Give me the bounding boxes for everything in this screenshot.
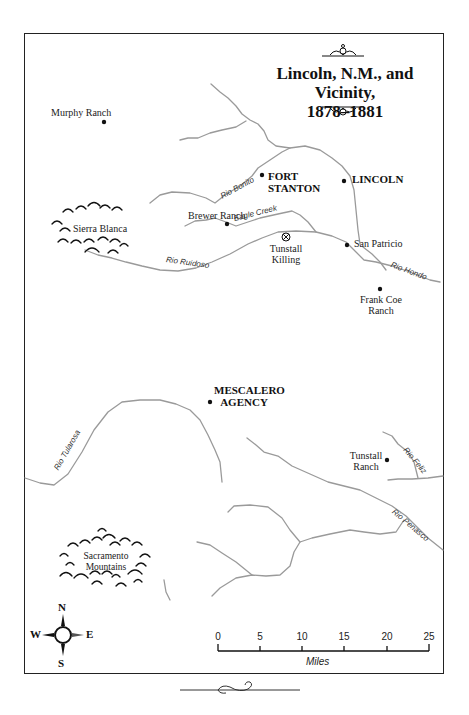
- scale-bar: [218, 644, 429, 651]
- label-murphy-ranch: Murphy Ranch: [51, 107, 111, 118]
- scale-tick-15: 15: [338, 631, 349, 642]
- label-frank-coe-ranch-line2: Ranch: [357, 305, 405, 316]
- compass-s: S: [58, 657, 64, 669]
- page-flourish-icon: [180, 682, 300, 693]
- river-rio-hondo: [363, 247, 386, 270]
- label-tunstall-killing-line2: Killing: [266, 254, 306, 265]
- label-tunstall-killing: Tunstall Killing: [266, 243, 306, 265]
- compass-e: E: [86, 628, 93, 640]
- river-rio-bonito: [150, 146, 360, 244]
- map-title: Lincoln, N.M., and Vicinity, 1878–1881: [250, 64, 440, 121]
- river-feliz-east: [388, 476, 443, 480]
- label-tunstall-ranch: Tunstall Ranch: [348, 450, 384, 472]
- label-mescalero-agency-line1: MESCALERO: [214, 384, 274, 396]
- title-ornament-top-icon: [322, 45, 364, 57]
- scale-tick-10: 10: [296, 631, 307, 642]
- label-lincoln: LINCOLN: [352, 173, 403, 185]
- label-fort-stanton-line1: FORT: [268, 170, 320, 182]
- compass-w: W: [30, 628, 41, 640]
- river-penasco-branch-c: [164, 580, 170, 600]
- river-rio-tularosa: [25, 400, 222, 485]
- compass-rose-icon: [42, 614, 84, 656]
- label-san-patricio: San Patricio: [354, 238, 403, 249]
- label-tunstall-killing-line1: Tunstall: [266, 243, 306, 254]
- scale-tick-5: 5: [257, 631, 263, 642]
- label-sacramento-mountains-line1: Sacramento: [80, 551, 132, 562]
- label-sacramento-mountains: Sacramento Mountains: [80, 551, 132, 573]
- label-frank-coe-ranch: Frank Coe Ranch: [357, 294, 405, 316]
- label-tunstall-ranch-line1: Tunstall: [348, 450, 384, 461]
- river-penasco-branch-a: [228, 505, 300, 542]
- label-mescalero-agency: MESCALERO AGENCY: [214, 384, 274, 408]
- river-penasco-branch-b: [197, 542, 252, 575]
- label-sacramento-mountains-line2: Mountains: [80, 562, 132, 573]
- map-title-line1: Lincoln, N.M., and Vicinity,: [250, 64, 440, 102]
- label-frank-coe-ranch-line1: Frank Coe: [357, 294, 405, 305]
- scale-tick-25: 25: [423, 631, 434, 642]
- scale-tick-20: 20: [381, 631, 392, 642]
- label-fort-stanton-line2: STANTON: [268, 182, 320, 194]
- map-title-line2: 1878–1881: [250, 102, 440, 121]
- compass-n: N: [58, 601, 66, 613]
- scale-tick-0: 0: [215, 631, 221, 642]
- tunstall-killing-marker-icon: [282, 233, 290, 241]
- label-mescalero-agency-line2: AGENCY: [214, 396, 274, 408]
- river-penasco-lower-main: [212, 520, 404, 596]
- scale-unit-label: Miles: [306, 656, 329, 667]
- label-sierra-blanca: Sierra Blanca: [73, 223, 127, 234]
- label-tunstall-ranch-line2: Ranch: [348, 461, 384, 472]
- river-upper-west: [180, 121, 246, 140]
- label-fort-stanton: FORT STANTON: [268, 170, 320, 194]
